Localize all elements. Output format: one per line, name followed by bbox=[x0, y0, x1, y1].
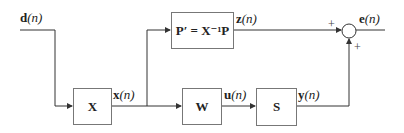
block-s-label: S bbox=[273, 99, 280, 115]
signal-y-arg: (n) bbox=[305, 87, 320, 102]
block-x: X bbox=[73, 88, 112, 125]
summing-junction bbox=[342, 24, 356, 38]
signal-z-label: z(n) bbox=[236, 12, 257, 25]
signal-e-arg: (n) bbox=[365, 11, 380, 26]
signal-d-arg: (n) bbox=[27, 10, 42, 25]
sum-sign-bottom: + bbox=[354, 41, 361, 53]
branch-to-p-line bbox=[147, 30, 170, 106]
block-p-label: P′ = X⁻¹P bbox=[176, 23, 230, 39]
block-w-label: W bbox=[196, 99, 209, 115]
signal-u-arg: (n) bbox=[231, 87, 246, 102]
sum-sign-top: + bbox=[328, 18, 335, 30]
signal-d-label: d(n) bbox=[20, 11, 42, 24]
signal-y-label: y(n) bbox=[298, 88, 320, 101]
block-p-prime: P′ = X⁻¹P bbox=[171, 12, 234, 49]
signal-x-label: x(n) bbox=[113, 88, 135, 101]
block-s: S bbox=[256, 88, 297, 126]
block-w: W bbox=[182, 88, 222, 125]
signal-x-arg: (n) bbox=[120, 87, 135, 102]
input-line bbox=[20, 30, 72, 106]
signal-e-label: e(n) bbox=[359, 12, 380, 25]
signal-z-arg: (n) bbox=[242, 11, 257, 26]
block-x-label: X bbox=[88, 99, 97, 115]
signal-u-label: u(n) bbox=[224, 88, 246, 101]
